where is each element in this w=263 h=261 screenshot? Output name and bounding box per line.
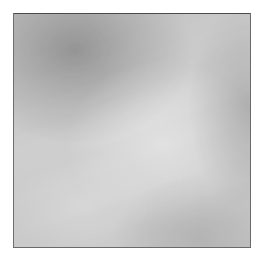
stromal-fiber-layer [13,13,251,248]
tonal-veil-layer [13,13,251,248]
plate-bottom-border [13,247,251,248]
region-pale-zone-lower [13,13,251,248]
region-pale-zone-center [13,13,251,248]
fine-grain-layer [13,13,251,248]
plate-right-border [250,13,251,248]
stroma-base-layer [13,13,251,248]
tissue-tonal-modulation-layer [13,13,251,248]
nuclei-speckle-layer [13,13,251,248]
region-dense-band-right [13,13,251,248]
micrograph-image [13,13,251,248]
region-dense-band-upper-left [13,13,251,248]
figure-root [0,0,263,261]
plate-left-border [13,13,14,248]
plate-top-border [13,13,251,14]
clearing-highlight-layer [13,13,251,248]
